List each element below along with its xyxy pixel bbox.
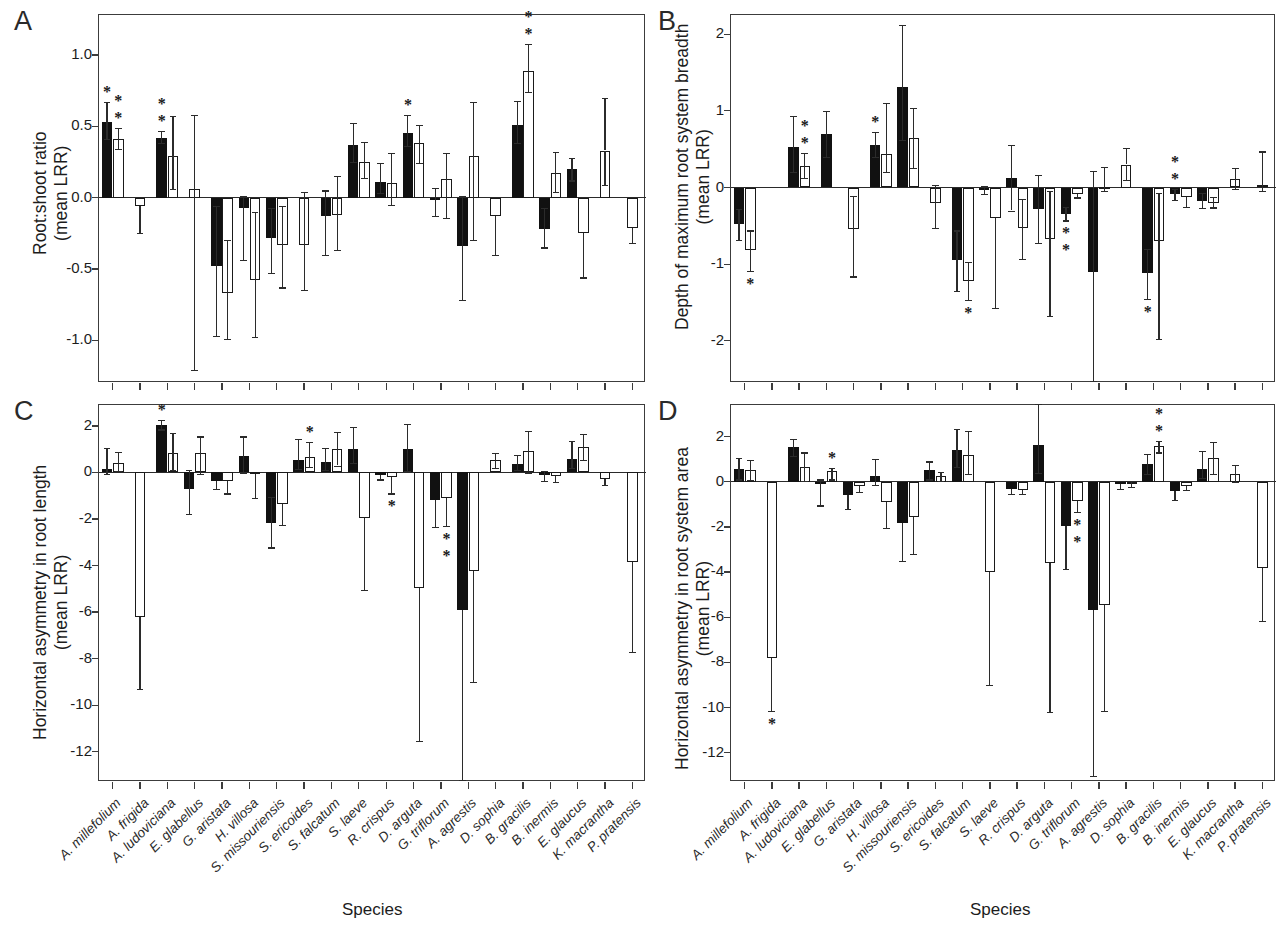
error-bar-upper <box>271 497 272 523</box>
error-bar-lower <box>271 523 272 548</box>
error-bar-cap <box>1117 489 1124 490</box>
plot-area-b: ********** <box>730 14 1275 382</box>
error-bar-upper <box>1202 193 1203 201</box>
error-bar-cap <box>1183 207 1190 208</box>
error-bar-cap <box>301 290 308 291</box>
significance-star: * <box>801 118 809 134</box>
error-bar-upper <box>325 190 326 216</box>
significance-star: * <box>1155 406 1163 422</box>
significance-star: * <box>525 9 533 25</box>
bar-filled <box>1006 482 1017 489</box>
error-bar-cap <box>736 240 743 241</box>
x-tick <box>386 782 387 789</box>
y-tick <box>724 526 731 527</box>
error-bar-cap <box>1047 712 1054 713</box>
error-bar-cap <box>910 108 917 109</box>
y-tick <box>92 54 99 55</box>
bar-open <box>414 472 425 587</box>
error-bar-cap <box>470 102 477 103</box>
significance-star: * <box>1062 242 1070 258</box>
y-tick-label: -8 <box>676 652 724 669</box>
error-bar-cap <box>541 471 548 472</box>
error-bar-lower <box>853 229 854 277</box>
error-bar-cap <box>1199 478 1206 479</box>
error-bar-lower <box>935 203 936 228</box>
error-bar-cap <box>377 479 384 480</box>
error-bar-cap <box>388 205 395 206</box>
error-bar-cap <box>872 132 879 133</box>
error-bar-cap <box>1232 465 1239 466</box>
x-tick <box>1125 782 1126 789</box>
error-bar-cap <box>1090 776 1097 777</box>
error-bar-cap <box>736 209 743 210</box>
bar-open <box>985 482 996 572</box>
error-bar-lower <box>391 183 392 204</box>
x-tick <box>1234 383 1235 390</box>
error-bar-upper <box>956 429 957 450</box>
error-bar-cap <box>525 44 532 45</box>
error-bar-cap <box>306 467 313 468</box>
error-bar-cap <box>541 481 548 482</box>
error-bar-cap <box>553 192 560 193</box>
error-bar-upper <box>172 116 173 156</box>
x-tick <box>1044 383 1045 390</box>
x-tick <box>440 383 441 390</box>
x-tick <box>880 782 881 789</box>
error-bar-upper <box>956 230 957 260</box>
error-bar-upper <box>227 240 228 293</box>
x-tick <box>907 383 908 390</box>
bar-open <box>441 472 452 498</box>
error-bar-upper <box>304 192 305 245</box>
error-bar-cap <box>856 492 863 493</box>
error-bar-lower <box>1022 228 1023 259</box>
error-bar-cap <box>404 115 411 116</box>
y-tick <box>724 264 731 265</box>
significance-star: * <box>801 135 809 151</box>
error-bar-cap <box>361 178 368 179</box>
error-bar-cap <box>1128 481 1135 482</box>
x-tick <box>112 383 113 390</box>
error-bar-lower <box>826 134 827 157</box>
error-bar-cap <box>899 140 906 141</box>
error-bar-cap <box>829 479 836 480</box>
error-bar-upper <box>1235 168 1236 179</box>
x-tick <box>1016 782 1017 789</box>
x-tick <box>139 782 140 789</box>
x-tick <box>522 782 523 789</box>
error-bar-lower <box>1011 178 1012 211</box>
bar-filled <box>897 482 908 523</box>
error-bar-upper <box>1158 193 1159 241</box>
x-tick <box>1153 383 1154 390</box>
x-tick <box>413 782 414 789</box>
error-bar-cap <box>1074 197 1081 198</box>
x-tick <box>194 383 195 390</box>
error-bar-cap <box>1156 441 1163 442</box>
significance-star: * <box>404 97 412 113</box>
error-bar-upper <box>1235 465 1236 474</box>
error-bar-cap <box>514 143 521 144</box>
x-tick <box>1044 782 1045 789</box>
error-bar-upper <box>106 448 107 469</box>
error-bar-upper <box>804 452 805 467</box>
error-bar-cap <box>1074 512 1081 513</box>
x-tick <box>907 782 908 789</box>
error-bar-cap <box>322 448 329 449</box>
error-bar-upper <box>1011 145 1012 177</box>
error-bar-lower <box>886 154 887 172</box>
error-bar-lower <box>517 125 518 144</box>
error-bar-upper <box>172 433 173 453</box>
error-bar-upper <box>935 185 936 203</box>
x-tick <box>853 782 854 789</box>
error-bar-lower <box>804 166 805 178</box>
error-bar-cap <box>872 157 879 158</box>
error-bar-cap <box>525 431 532 432</box>
y-tick-label: 0 <box>44 462 92 479</box>
error-bar-upper <box>495 453 496 461</box>
error-bar-cap <box>252 498 259 499</box>
error-bar-lower <box>632 562 633 652</box>
x-tick <box>604 383 605 390</box>
error-bar-cap <box>350 427 357 428</box>
error-bar-upper <box>380 163 381 182</box>
error-bar-cap <box>790 116 797 117</box>
error-bar-lower <box>227 481 228 493</box>
